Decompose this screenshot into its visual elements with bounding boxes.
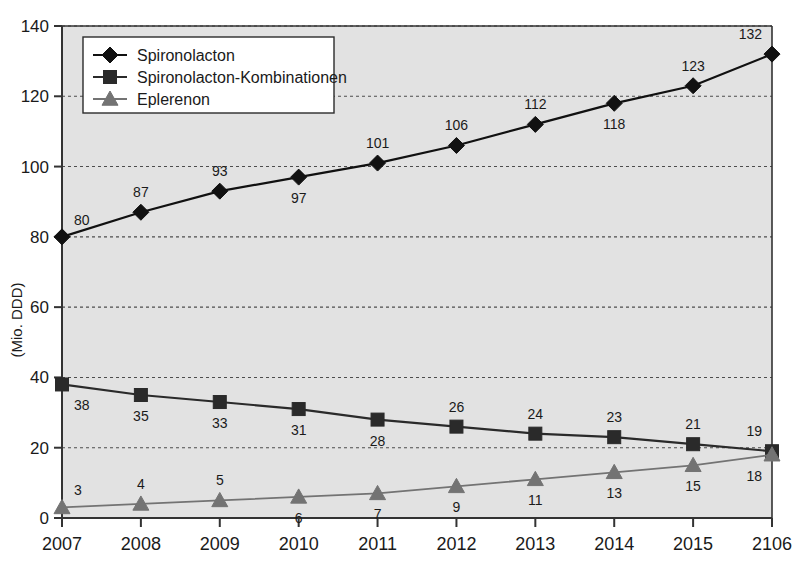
data-point-label: 38	[74, 397, 90, 413]
legend-item-label: Eplerenon	[137, 91, 210, 108]
series-marker	[687, 438, 700, 451]
data-point-label: 6	[295, 510, 303, 526]
x-axis-tick-label: 2010	[279, 534, 319, 554]
series-marker	[213, 396, 226, 409]
x-axis-tick-label: 2015	[673, 534, 713, 554]
data-point-label: 13	[606, 485, 622, 501]
data-point-label: 97	[291, 190, 307, 206]
x-axis-tick-label: 2106	[752, 534, 792, 554]
legend-marker-square-icon	[104, 71, 117, 84]
data-point-label: 118	[603, 116, 626, 132]
data-point-label: 21	[685, 416, 701, 432]
chart-figure: 020406080100120140 200720082009201020112…	[0, 0, 806, 562]
data-point-label: 4	[137, 476, 145, 492]
data-point-label: 19	[746, 423, 762, 439]
data-point-label: 11	[528, 492, 543, 508]
y-axis-tick-label: 60	[30, 298, 49, 317]
y-axis-tick-label: 40	[30, 368, 49, 387]
y-axis-tick-label: 140	[21, 17, 49, 36]
data-point-label: 101	[366, 135, 390, 151]
data-point-label: 93	[212, 163, 228, 179]
data-point-label: 106	[445, 117, 469, 133]
data-point-label: 33	[212, 415, 228, 431]
legend-item-label: Spironolacton-Kombinationen	[137, 69, 347, 86]
data-point-label: 35	[133, 408, 149, 424]
legend-item-3[interactable]: Eplerenon	[93, 91, 210, 108]
y-axis-tick-label: 0	[40, 509, 49, 528]
x-axis-tick-label: 2007	[42, 534, 82, 554]
data-point-label: 23	[606, 409, 622, 425]
data-point-label: 26	[449, 399, 465, 415]
series-marker	[608, 431, 621, 444]
x-axis-tick-label: 2008	[121, 534, 161, 554]
x-axis-tick-label: 2014	[594, 534, 634, 554]
x-axis-tick-label: 2013	[515, 534, 555, 554]
data-point-label: 9	[453, 499, 461, 515]
data-point-label: 112	[524, 96, 547, 112]
data-point-label: 3	[74, 482, 82, 498]
data-point-label: 18	[746, 468, 762, 484]
data-point-label: 87	[133, 184, 149, 200]
x-axis-tick-label: 2011	[358, 534, 397, 554]
data-point-label: 5	[216, 472, 224, 488]
x-axis: 2007200820092010201120122013201420152106	[42, 518, 792, 554]
x-axis-tick-label: 2009	[200, 534, 240, 554]
data-point-label: 123	[681, 58, 705, 74]
line-chart: 020406080100120140 200720082009201020112…	[0, 0, 806, 562]
data-point-label: 132	[739, 26, 763, 42]
series-marker	[450, 420, 463, 433]
y-axis-title: (Mio. DDD)	[8, 283, 25, 358]
series-marker	[134, 389, 147, 402]
legend-item-label: Spironolacton	[137, 47, 235, 64]
chart-legend: SpironolactonSpironolacton-Kombinationen…	[83, 37, 347, 113]
x-axis-tick-label: 2012	[436, 534, 476, 554]
y-axis-tick-label: 20	[30, 439, 49, 458]
data-point-label: 7	[374, 506, 382, 522]
y-axis: 020406080100120140	[21, 17, 62, 528]
data-point-label: 80	[74, 212, 90, 228]
y-axis-tick-label: 100	[21, 158, 49, 177]
data-point-label: 15	[685, 478, 701, 494]
series-marker	[56, 378, 69, 391]
series-marker	[292, 403, 305, 416]
data-point-label: 24	[528, 406, 544, 422]
y-axis-tick-label: 120	[21, 87, 49, 106]
data-point-label: 31	[291, 422, 307, 438]
y-axis-tick-label: 80	[30, 228, 49, 247]
series-marker	[529, 427, 542, 440]
data-point-label: 28	[370, 433, 386, 449]
series-marker	[371, 413, 384, 426]
